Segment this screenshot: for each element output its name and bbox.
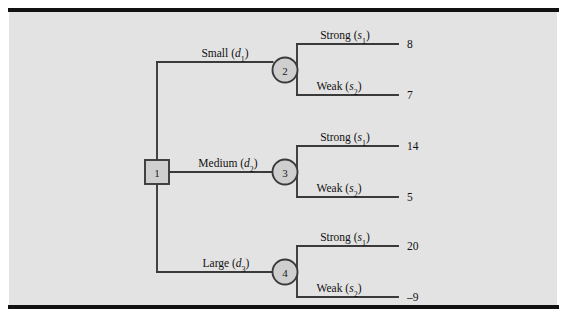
tree-nodes-layer: 1234 xyxy=(145,58,298,285)
outcome-label-strong-2: Strong (s1) xyxy=(320,29,370,46)
outcome-label-weak-2: Weak (s2) xyxy=(317,80,362,97)
tree-labels-layer: Small (d1)Medium (d2)Large (d3)Strong (s… xyxy=(198,29,418,303)
payoff-value-strong-4: 20 xyxy=(407,240,419,252)
node-label-4: 4 xyxy=(282,267,288,279)
node-label-3: 3 xyxy=(282,167,288,179)
decision-label-medium: Medium (d2) xyxy=(198,157,257,174)
payoff-value-strong-3: 14 xyxy=(407,140,419,152)
outcome-label-strong-3: Strong (s1) xyxy=(320,131,370,148)
outcome-label-strong-4: Strong (s1) xyxy=(320,231,370,248)
figure-frame: 1234 Small (d1)Medium (d2)Large (d3)Stro… xyxy=(0,0,567,320)
payoff-value-weak-3: 5 xyxy=(407,191,413,203)
payoff-value-strong-2: 8 xyxy=(407,38,413,50)
outcome-label-weak-4: Weak (s2) xyxy=(317,282,362,299)
node-label-2: 2 xyxy=(282,65,288,77)
payoff-value-weak-2: 7 xyxy=(407,89,413,101)
decision-tree-diagram: 1234 Small (d1)Medium (d2)Large (d3)Stro… xyxy=(0,0,567,320)
node-label-1: 1 xyxy=(154,167,160,179)
decision-label-large: Large (d3) xyxy=(203,257,250,274)
outcome-label-weak-3: Weak (s2) xyxy=(317,182,362,199)
decision-label-small: Small (d1) xyxy=(201,47,248,64)
payoff-value-weak-4: –9 xyxy=(406,291,419,303)
